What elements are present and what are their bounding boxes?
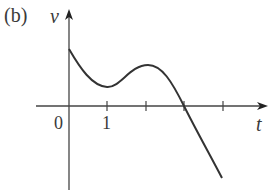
chart-canvas <box>0 0 268 193</box>
velocity-curve <box>69 49 222 178</box>
